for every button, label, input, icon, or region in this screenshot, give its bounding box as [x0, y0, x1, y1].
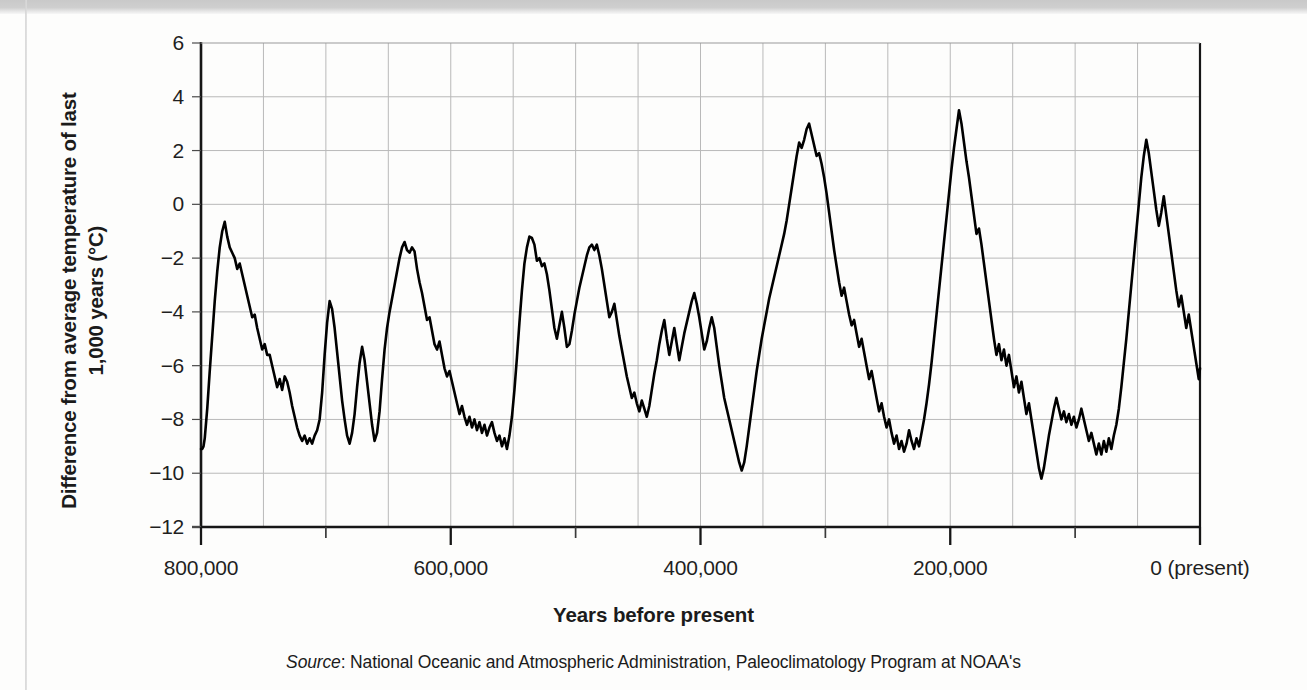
y-tick-label: 4 — [173, 85, 184, 109]
source-note: Source: National Oceanic and Atmospheric… — [0, 652, 1307, 673]
x-tick-label: 200,000 — [913, 556, 988, 580]
x-tick-label: 800,000 — [164, 556, 239, 580]
x-tick-label: 600,000 — [413, 556, 488, 580]
y-tick-label: −8 — [161, 407, 184, 431]
source-text: : National Oceanic and Atmospheric Admin… — [341, 652, 1021, 672]
x-tick-label: 0 (present) — [1150, 556, 1249, 580]
tick-marks — [192, 43, 1200, 545]
y-tick-label: −12 — [149, 515, 184, 539]
y-tick-label: 0 — [173, 192, 184, 216]
y-tick-label: −4 — [161, 300, 184, 324]
source-label: Source — [286, 652, 341, 672]
y-tick-label: −6 — [161, 354, 184, 378]
x-axis-title: Years before present — [0, 603, 1307, 627]
gridlines — [201, 43, 1200, 527]
y-tick-label: −2 — [161, 246, 184, 270]
y-axis-title: Difference from average temperature of l… — [56, 66, 109, 536]
x-tick-label: 400,000 — [663, 556, 738, 580]
temperature-anomaly-chart: Difference from average temperature of l… — [0, 0, 1307, 690]
y-tick-label: −10 — [149, 461, 184, 485]
y-tick-label: 2 — [173, 139, 184, 163]
chart-plot-svg — [0, 0, 1307, 690]
y-tick-label: 6 — [173, 31, 184, 55]
